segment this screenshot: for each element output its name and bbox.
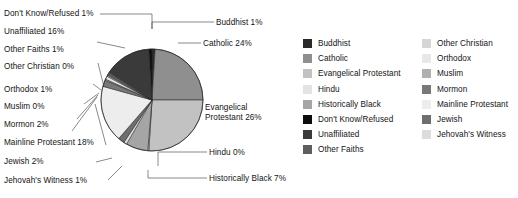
callout-jehovahs-witness: Jehovah's Witness 1% bbox=[4, 176, 87, 186]
legend-item-evangelical-protestant[interactable]: Evangelical Protestant bbox=[303, 66, 401, 81]
legend-column-1: BuddhistCatholicEvangelical ProtestantHi… bbox=[303, 36, 401, 158]
legend-label-jehovah-s-witness: Jehovah's Witness bbox=[437, 130, 506, 139]
legend-label-other-christian: Other Christian bbox=[437, 39, 493, 48]
legend-item-unaffiliated[interactable]: Unaffiliated bbox=[303, 127, 401, 142]
callout-jewish: Jewish 2% bbox=[4, 157, 44, 167]
legend-swatch-evangelical-protestant bbox=[303, 69, 312, 78]
chart-legend: BuddhistCatholicEvangelical ProtestantHi… bbox=[303, 36, 518, 161]
legend-swatch-muslim bbox=[422, 69, 431, 78]
callout-catholic: Catholic 24% bbox=[203, 39, 252, 49]
legend-swatch-orthodox bbox=[422, 54, 431, 63]
legend-swatch-catholic bbox=[303, 54, 312, 63]
callout-unaffiliated: Unaffiliated 16% bbox=[4, 27, 64, 37]
legend-swatch-hindu bbox=[303, 85, 312, 94]
pie-slice-catholic[interactable]: Catholic 24% bbox=[152, 49, 203, 100]
legend-label-hindu: Hindu bbox=[318, 85, 340, 94]
legend-item-mainline-protestant[interactable]: Mainline Protestant bbox=[422, 97, 508, 112]
legend-item-buddhist[interactable]: Buddhist bbox=[303, 36, 401, 51]
legend-label-buddhist: Buddhist bbox=[318, 39, 350, 48]
legend-swatch-buddhist bbox=[303, 39, 312, 48]
legend-item-muslim[interactable]: Muslim bbox=[422, 66, 508, 81]
legend-column-2: Other ChristianOrthodoxMuslimMormonMainl… bbox=[422, 36, 508, 142]
legend-swatch-don-t-know-refused bbox=[303, 115, 312, 124]
callout-dont-know-refused: Don't Know/Refused 1% bbox=[4, 9, 94, 19]
legend-swatch-other-faiths bbox=[303, 145, 312, 154]
legend-swatch-jewish bbox=[422, 115, 431, 124]
legend-swatch-mormon bbox=[422, 85, 431, 94]
callout-muslim: Muslim 0% bbox=[4, 102, 44, 112]
legend-label-other-faiths: Other Faiths bbox=[318, 145, 364, 154]
legend-label-don-t-know-refused: Don't Know/Refused bbox=[318, 115, 393, 124]
legend-swatch-mainline-protestant bbox=[422, 100, 431, 109]
pie-chart-figure: Buddhist 1%Catholic 24%Evangelical Prote… bbox=[0, 0, 518, 198]
legend-item-other-christian[interactable]: Other Christian bbox=[422, 36, 508, 51]
legend-item-other-faiths[interactable]: Other Faiths bbox=[303, 142, 401, 157]
legend-item-mormon[interactable]: Mormon bbox=[422, 82, 508, 97]
legend-label-unaffiliated: Unaffiliated bbox=[318, 130, 359, 139]
legend-label-orthodox: Orthodox bbox=[437, 54, 471, 63]
callout-historically-black: Historically Black 7% bbox=[209, 174, 286, 184]
callout-evangelical-protestant: Evangelical Protestant 26% bbox=[205, 103, 267, 122]
pie-slices: Buddhist 1%Catholic 24%Evangelical Prote… bbox=[101, 49, 203, 151]
callout-other-christian: Other Christian 0% bbox=[4, 62, 74, 72]
legend-item-historically-black[interactable]: Historically Black bbox=[303, 97, 401, 112]
callout-mormon: Mormon 2% bbox=[4, 120, 49, 130]
pie-slice-evangelical-protestant[interactable]: Evangelical Protestant 26% bbox=[149, 100, 203, 151]
callout-mainline-protestant: Mainline Protestant 18% bbox=[4, 138, 94, 148]
legend-label-mainline-protestant: Mainline Protestant bbox=[437, 100, 508, 109]
legend-swatch-other-christian bbox=[422, 39, 431, 48]
legend-item-jewish[interactable]: Jewish bbox=[422, 112, 508, 127]
legend-swatch-jehovah-s-witness bbox=[422, 130, 431, 139]
legend-item-jehovah-s-witness[interactable]: Jehovah's Witness bbox=[422, 127, 508, 142]
legend-item-don-t-know-refused[interactable]: Don't Know/Refused bbox=[303, 112, 401, 127]
legend-item-catholic[interactable]: Catholic bbox=[303, 51, 401, 66]
legend-label-evangelical-protestant: Evangelical Protestant bbox=[318, 69, 401, 78]
legend-swatch-historically-black bbox=[303, 100, 312, 109]
legend-label-jewish: Jewish bbox=[437, 115, 462, 124]
callout-other-faiths: Other Faiths 1% bbox=[4, 45, 64, 55]
legend-item-hindu[interactable]: Hindu bbox=[303, 82, 401, 97]
legend-swatch-unaffiliated bbox=[303, 130, 312, 139]
legend-label-muslim: Muslim bbox=[437, 69, 463, 78]
callout-buddhist: Buddhist 1% bbox=[216, 18, 263, 28]
legend-item-orthodox[interactable]: Orthodox bbox=[422, 51, 508, 66]
legend-label-mormon: Mormon bbox=[437, 85, 467, 94]
callout-hindu: Hindu 0% bbox=[209, 148, 245, 158]
legend-label-historically-black: Historically Black bbox=[318, 100, 381, 109]
legend-label-catholic: Catholic bbox=[318, 54, 348, 63]
callout-orthodox: Orthodox 1% bbox=[4, 85, 52, 95]
